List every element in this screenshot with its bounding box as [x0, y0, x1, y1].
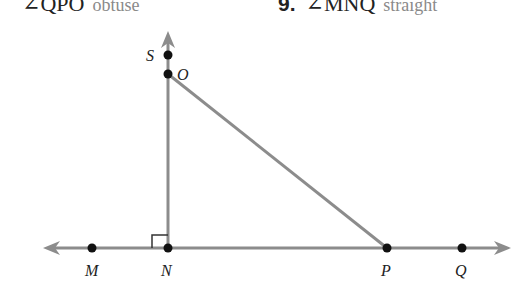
point-p: [383, 244, 392, 253]
point-q: [458, 244, 467, 253]
label-o: O: [177, 66, 189, 83]
label-m: M: [84, 262, 100, 279]
ray-ns: [161, 31, 175, 248]
geometry-diagram: S O M N P Q: [0, 0, 521, 290]
point-m: [88, 244, 97, 253]
line-mq: [43, 241, 511, 255]
point-o: [164, 70, 173, 79]
segment-op: [168, 74, 387, 248]
point-s: [164, 51, 173, 60]
label-s: S: [146, 47, 154, 64]
label-n: N: [160, 262, 173, 279]
label-q: Q: [455, 262, 467, 279]
point-n: [164, 244, 173, 253]
label-p: P: [380, 262, 391, 279]
